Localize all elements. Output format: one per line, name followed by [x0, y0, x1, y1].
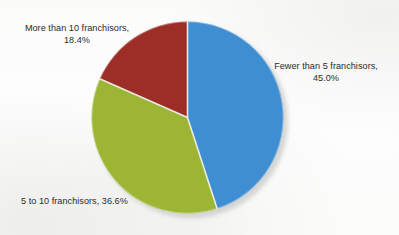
pie-label-fewer-than-5: Fewer than 5 franchisors, 45.0%	[263, 60, 389, 85]
pie-label-more-than-10-line2: 18.4%	[14, 34, 140, 46]
pie-label-more-than-10: More than 10 franchisors, 18.4%	[14, 22, 140, 47]
pie-label-5-to-10-line1: 5 to 10 franchisors, 36.6%	[21, 196, 128, 206]
pie-chart-plot-area	[91, 21, 284, 214]
pie-chart-figure: More than 10 franchisors, 18.4% Fewer th…	[0, 0, 399, 235]
pie-svg	[91, 21, 284, 214]
pie-label-fewer-than-5-line2: 45.0%	[263, 72, 389, 84]
pie-label-5-to-10: 5 to 10 franchisors, 36.6%	[21, 195, 128, 207]
pie-label-fewer-than-5-line1: Fewer than 5 franchisors,	[274, 61, 378, 71]
pie-label-more-than-10-line1: More than 10 franchisors,	[25, 23, 129, 33]
